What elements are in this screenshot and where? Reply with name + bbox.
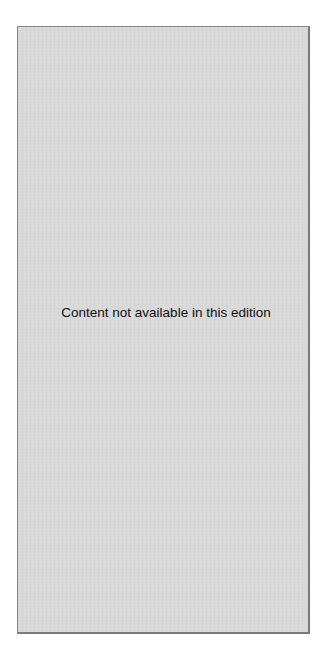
- content-unavailable-panel: Content not available in this edition: [17, 26, 310, 634]
- unavailable-message: Content not available in this edition: [18, 305, 308, 320]
